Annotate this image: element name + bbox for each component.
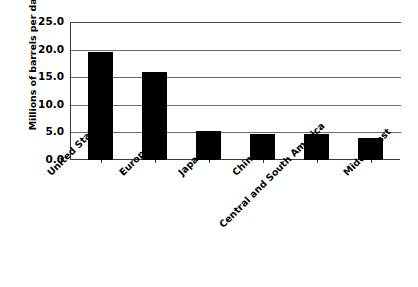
y-tick-label: 10.0: [30, 99, 64, 110]
y-tick-label: 20.0: [30, 44, 64, 55]
plot-area: [70, 22, 400, 160]
bar-chart-figure: Millions of barrels per day 25.0 20.0 15…: [0, 0, 418, 287]
y-tick-label: 5.0: [30, 126, 64, 137]
y-axis-tick-labels: 25.0 20.0 15.0 10.0 5.0 0.0: [28, 0, 64, 287]
bar-united-states: [88, 52, 113, 160]
y-tick-label: 15.0: [30, 71, 64, 82]
x-axis-category-labels: United States Europe Japan China Central…: [70, 160, 418, 287]
y-tick-label: 25.0: [30, 16, 64, 27]
bars-layer: [71, 22, 401, 160]
